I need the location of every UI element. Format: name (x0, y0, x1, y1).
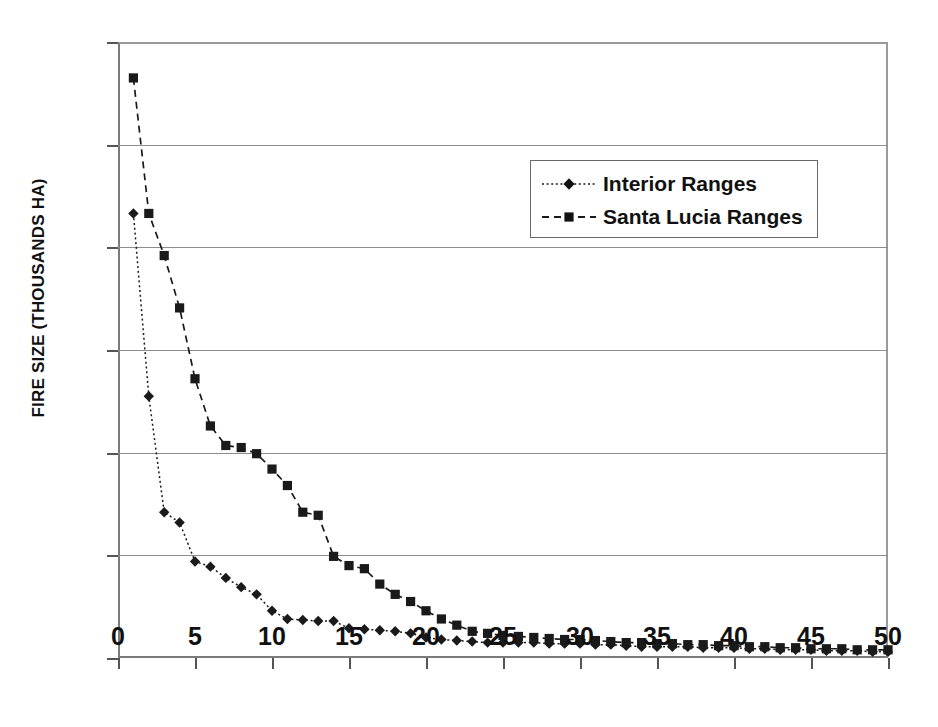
y-tick-mark (107, 145, 118, 147)
x-tick-mark (426, 658, 428, 669)
x-tick-mark (195, 658, 197, 669)
x-tick-label: 35 (643, 622, 671, 651)
data-point-square (129, 73, 138, 82)
x-tick-label: 50 (874, 622, 902, 651)
data-point-square (190, 374, 199, 383)
series-interior-ranges (128, 208, 893, 657)
chart-legend: Interior Ranges Santa Lucia Ranges (530, 160, 818, 238)
legend-item-santa-lucia-ranges: Santa Lucia Ranges (541, 200, 807, 233)
y-tick-mark (107, 42, 118, 44)
data-point-diamond (298, 615, 308, 625)
y-tick-mark (107, 453, 118, 455)
data-point-diamond (159, 507, 169, 517)
y-tick-mark (107, 555, 118, 557)
x-tick-label: 20 (412, 622, 440, 651)
data-point-square (683, 640, 692, 649)
x-tick-mark (580, 658, 582, 669)
data-point-square (391, 590, 400, 599)
x-tick-label: 30 (566, 622, 594, 651)
x-tick-label: 10 (258, 622, 286, 651)
x-tick-label: 5 (188, 622, 202, 651)
x-tick-mark (657, 658, 659, 669)
data-point-square (221, 441, 230, 450)
x-tick-mark (118, 658, 120, 669)
x-tick-label: 0 (111, 622, 125, 651)
data-point-square (160, 251, 169, 260)
x-tick-mark (888, 658, 890, 669)
data-point-square (622, 638, 631, 647)
legend-label-interior-ranges: Interior Ranges (603, 172, 757, 196)
chart-root: FIRE SIZE (THOUSANDS HA) 0102030405060 I… (0, 0, 938, 727)
data-point-diamond (452, 635, 462, 645)
x-tick-label: 45 (797, 622, 825, 651)
data-point-square (406, 597, 415, 606)
data-point-diamond (467, 636, 477, 646)
y-tick-mark (107, 247, 118, 249)
x-tick-mark (503, 658, 505, 669)
data-point-diamond (375, 625, 385, 635)
x-tick-mark (349, 658, 351, 669)
data-point-square (853, 645, 862, 654)
data-point-square (329, 552, 338, 561)
data-point-square (837, 644, 846, 653)
data-point-square (360, 564, 369, 573)
legend-item-interior-ranges: Interior Ranges (541, 167, 807, 200)
series-layer (118, 42, 888, 658)
data-point-square (175, 303, 184, 312)
y-tick-mark (107, 350, 118, 352)
data-point-square (776, 643, 785, 652)
data-point-square (452, 621, 461, 630)
y-axis-title: FIRE SIZE (THOUSANDS HA) (29, 98, 55, 498)
data-point-diamond (390, 626, 400, 636)
data-point-square (283, 481, 292, 490)
data-point-diamond (190, 556, 200, 566)
y-tick-mark (107, 658, 118, 660)
x-tick-label: 25 (489, 622, 517, 651)
x-tick-label: 40 (720, 622, 748, 651)
data-point-square (529, 633, 538, 642)
data-point-square (144, 209, 153, 218)
legend-key-diamond-icon (541, 176, 597, 192)
data-point-square (237, 443, 246, 452)
data-point-square (468, 627, 477, 636)
data-point-diamond (205, 561, 215, 571)
data-point-diamond (128, 208, 138, 218)
data-point-square (545, 634, 554, 643)
data-point-square (421, 606, 430, 615)
x-tick-mark (734, 658, 736, 669)
data-point-square (298, 508, 307, 517)
data-point-square (314, 511, 323, 520)
data-point-diamond (174, 517, 184, 527)
legend-key-square-icon (541, 209, 597, 225)
data-point-square (375, 579, 384, 588)
plot-area: 0102030405060 (118, 42, 888, 658)
x-tick-label: 15 (335, 622, 363, 651)
x-tick-mark (272, 658, 274, 669)
data-point-square (344, 561, 353, 570)
data-point-square (606, 637, 615, 646)
data-point-square (206, 421, 215, 430)
data-point-square (760, 642, 769, 651)
data-point-diamond (221, 573, 231, 583)
data-point-square (699, 640, 708, 649)
data-point-diamond (236, 582, 246, 592)
data-point-diamond (313, 616, 323, 626)
data-point-diamond (144, 391, 154, 401)
data-point-diamond (251, 589, 261, 599)
x-tick-mark (811, 658, 813, 669)
data-point-diamond (267, 606, 277, 616)
data-point-square (252, 449, 261, 458)
data-point-square (267, 464, 276, 473)
series-line (133, 213, 888, 651)
legend-label-santa-lucia-ranges: Santa Lucia Ranges (603, 205, 803, 229)
